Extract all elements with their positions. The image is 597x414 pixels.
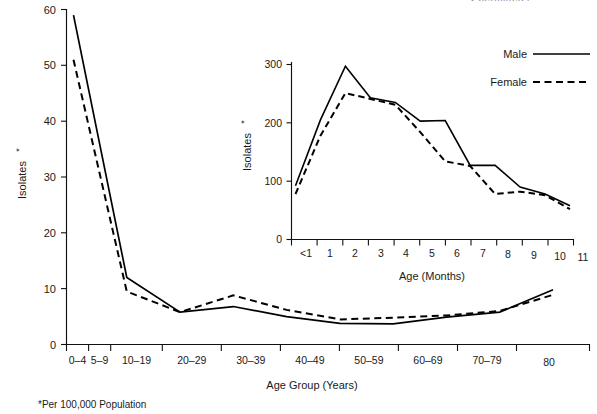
main-y-ticks: [61, 10, 67, 345]
main-y-tick-60: 60: [44, 4, 56, 16]
inset-x-label-lt1: <1: [300, 247, 312, 259]
main-chart: 0 10 20 30 40 50 60 Isolates *: [14, 4, 590, 392]
inset-x-label-4: 4: [403, 247, 409, 259]
inset-x-label-3: 3: [378, 247, 384, 259]
main-x-label-0-4: 0–4: [69, 354, 87, 366]
main-x-label-70-79: 70–79: [472, 354, 501, 366]
inset-x-label-8: 8: [505, 248, 511, 260]
main-x-label-80: 80: [543, 356, 555, 368]
inset-x-label-6: 6: [454, 247, 460, 259]
inset-x-label-10: 10: [554, 250, 566, 262]
main-y-axis-title: Isolates *: [14, 148, 28, 199]
main-x-axis-title: Age Group (Years): [266, 379, 357, 391]
main-x-label-5-9: 5–9: [91, 354, 109, 366]
main-series-male: [74, 15, 554, 324]
main-y-tick-0: 0: [50, 339, 56, 351]
footnote-text: *Per 100,000 Population: [38, 399, 146, 410]
figure-container: y permitted l 0 10 20 30 40: [0, 0, 597, 414]
inset-x-label-9: 9: [531, 249, 537, 261]
main-y-axis-title-text: Isolates: [16, 161, 28, 199]
legend: Male Female: [490, 48, 590, 88]
inset-x-label-2: 2: [352, 247, 358, 259]
inset-series-male: [296, 66, 571, 205]
legend-label-female: Female: [490, 76, 527, 88]
inset-y-tick-200: 200: [264, 117, 282, 129]
main-x-label-40-49: 40–49: [295, 354, 324, 366]
inset-y-axis-title-superscript: *: [239, 120, 249, 124]
legend-label-male: Male: [503, 48, 527, 60]
chart-canvas: 0 10 20 30 40 50 60 Isolates *: [0, 0, 597, 414]
inset-series-female: [296, 93, 571, 209]
inset-x-ticks: [292, 240, 574, 246]
inset-y-ticks: [287, 65, 292, 240]
inset-x-label-5: 5: [429, 247, 435, 259]
main-x-label-20-29: 20–29: [177, 354, 206, 366]
inset-y-axis-title-text: Isolates: [241, 133, 253, 171]
main-y-tick-50: 50: [44, 59, 56, 71]
main-y-tick-20: 20: [44, 227, 56, 239]
inset-y-tick-100: 100: [264, 175, 282, 187]
inset-chart: 0 100 200 300 Isolates *: [239, 48, 590, 282]
main-y-axis-title-superscript: *: [14, 148, 24, 152]
inset-y-tick-300: 300: [264, 58, 282, 70]
main-x-label-10-19: 10–19: [122, 354, 151, 366]
main-x-label-50-59: 50–59: [354, 354, 383, 366]
inset-x-label-11: 11: [578, 251, 589, 263]
main-x-ticks: [67, 345, 590, 352]
inset-y-tick-0: 0: [276, 233, 282, 245]
main-x-label-60-69: 60–69: [413, 354, 442, 366]
main-y-tick-40: 40: [44, 115, 56, 127]
inset-x-label-1: 1: [327, 247, 333, 259]
main-y-tick-30: 30: [44, 171, 56, 183]
main-x-label-30-39: 30–39: [236, 354, 265, 366]
inset-y-axis-title: Isolates *: [239, 120, 253, 171]
inset-x-axis-title: Age (Months): [399, 270, 465, 282]
inset-x-label-7: 7: [480, 247, 486, 259]
main-series-female: [74, 60, 554, 320]
main-y-tick-10: 10: [44, 283, 56, 295]
